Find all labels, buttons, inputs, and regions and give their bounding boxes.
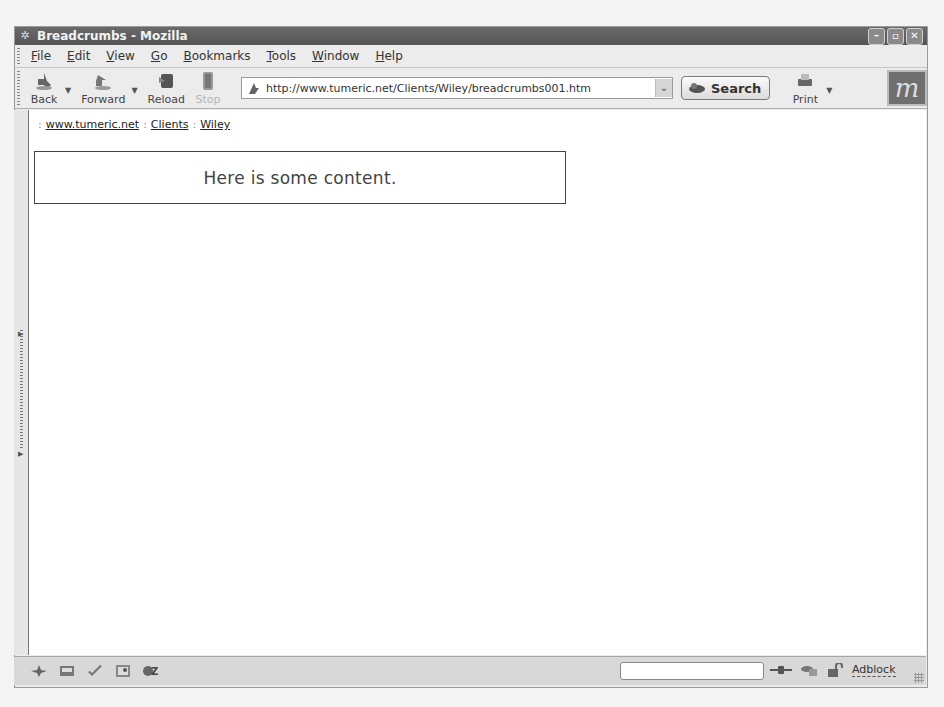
breadcrumb-separator: : bbox=[143, 118, 147, 131]
address-book-icon[interactable] bbox=[114, 664, 132, 678]
close-button[interactable]: ✕ bbox=[906, 28, 923, 45]
mozilla-app-icon: ✲ bbox=[19, 30, 31, 42]
menu-go[interactable]: Go bbox=[143, 49, 176, 63]
forward-arrow-icon bbox=[92, 71, 114, 91]
search-icon bbox=[686, 81, 708, 95]
menu-file[interactable]: File bbox=[23, 49, 59, 63]
menu-help[interactable]: Help bbox=[367, 49, 410, 63]
security-lock-icon[interactable] bbox=[826, 663, 844, 677]
mail-icon[interactable] bbox=[58, 664, 76, 678]
sidebar-grip-handle[interactable] bbox=[20, 330, 23, 450]
url-history-dropdown[interactable]: ⌄ bbox=[655, 79, 672, 97]
search-button[interactable]: Search bbox=[681, 76, 770, 100]
sidebar-splitter[interactable]: ▶ ▶ bbox=[14, 110, 28, 655]
content-text: Here is some content. bbox=[203, 168, 396, 188]
status-progress-field bbox=[620, 662, 764, 680]
breadcrumb-link-wiley[interactable]: Wiley bbox=[200, 118, 230, 131]
sidebar-collapse-arrow-icon[interactable]: ▶ bbox=[18, 450, 23, 458]
popup-blocker-icon[interactable] bbox=[800, 663, 818, 677]
menubar-grip-handle[interactable] bbox=[17, 48, 20, 64]
printer-icon bbox=[794, 71, 816, 91]
print-options-dropdown[interactable]: ▼ bbox=[826, 86, 832, 95]
composer-icon[interactable] bbox=[86, 664, 104, 678]
window-resize-grip[interactable] bbox=[914, 673, 924, 683]
window-title: Breadcrumbs - Mozilla bbox=[37, 29, 188, 43]
maximize-button[interactable]: ▫ bbox=[887, 28, 904, 45]
chatzilla-icon[interactable]: Z bbox=[142, 664, 160, 678]
breadcrumb-link-clients[interactable]: Clients bbox=[151, 118, 189, 131]
title-bar: ✲ Breadcrumbs - Mozilla – ▫ ✕ bbox=[15, 27, 927, 45]
page-proxy-icon[interactable] bbox=[246, 80, 262, 96]
toolbar-grip-handle[interactable] bbox=[17, 71, 20, 105]
menu-window[interactable]: Window bbox=[304, 49, 367, 63]
menu-view[interactable]: View bbox=[98, 49, 142, 63]
address-bar[interactable]: http://www.tumeric.net/Clients/Wiley/bre… bbox=[241, 77, 673, 99]
page-content: :www.tumeric.net:Clients:Wiley Here is s… bbox=[28, 110, 926, 655]
online-offline-icon[interactable] bbox=[770, 663, 792, 677]
forward-history-dropdown[interactable]: ▼ bbox=[131, 86, 137, 95]
forward-button[interactable]: Forward bbox=[77, 70, 129, 106]
navigator-icon[interactable] bbox=[30, 664, 48, 678]
component-bar: Z bbox=[14, 664, 160, 678]
back-arrow-icon bbox=[33, 71, 55, 91]
url-input[interactable]: http://www.tumeric.net/Clients/Wiley/bre… bbox=[266, 82, 655, 95]
print-button[interactable]: Print bbox=[786, 70, 824, 106]
menu-bookmarks[interactable]: Bookmarks bbox=[175, 49, 258, 63]
adblock-toggle[interactable]: Adblock bbox=[852, 664, 896, 677]
back-button[interactable]: Back bbox=[25, 70, 63, 106]
breadcrumb: :www.tumeric.net:Clients:Wiley bbox=[34, 118, 230, 131]
reload-button[interactable]: Reload bbox=[144, 70, 189, 106]
stop-icon bbox=[197, 71, 219, 91]
breadcrumb-separator: : bbox=[38, 118, 42, 131]
minimize-button[interactable]: – bbox=[868, 28, 885, 45]
breadcrumb-link-home[interactable]: www.tumeric.net bbox=[46, 118, 139, 131]
reload-icon bbox=[155, 71, 177, 91]
menu-tools[interactable]: Tools bbox=[259, 49, 305, 63]
svg-text:Z: Z bbox=[151, 666, 158, 677]
breadcrumb-separator: : bbox=[192, 118, 196, 131]
mozilla-throbber-logo[interactable]: m bbox=[887, 70, 927, 106]
menu-bar: File Edit View Go Bookmarks Tools Window… bbox=[15, 45, 927, 68]
navigation-toolbar: Back ▼ Forward ▼ Reload Stop bbox=[15, 68, 927, 109]
menu-edit[interactable]: Edit bbox=[59, 49, 98, 63]
stop-button[interactable]: Stop bbox=[189, 70, 227, 106]
status-bar: Z Adblock bbox=[14, 656, 926, 685]
content-box: Here is some content. bbox=[34, 151, 566, 204]
back-history-dropdown[interactable]: ▼ bbox=[65, 86, 71, 95]
